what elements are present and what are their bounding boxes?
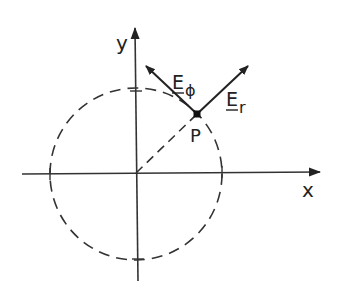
e-phi-label: E ϕ [172,71,196,100]
point-p-label: P [190,125,201,146]
e-r-base: E [226,88,238,110]
e-phi-base: E [172,71,184,93]
y-axis [135,28,138,281]
e-phi-subscript: ϕ [185,81,196,100]
radius-line [136,114,197,173]
y-axis-label: y [116,31,128,55]
point-p-marker [194,111,201,118]
polar-field-diagram: y x P E ϕ E r [0,0,347,299]
x-axis [22,172,320,174]
x-axis-label: x [302,178,314,202]
e-r-label: E r [226,88,246,117]
e-r-subscript: r [239,98,246,117]
